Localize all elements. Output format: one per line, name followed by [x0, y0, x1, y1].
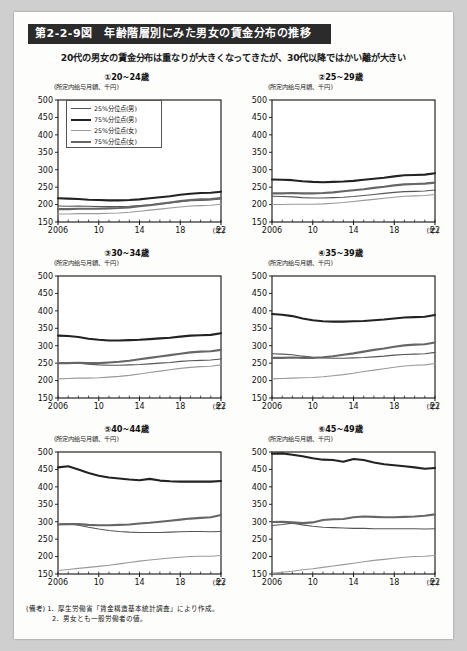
- plot-area-2: 150200250300350400450500200610141822(年): [238, 92, 443, 242]
- chart-legend: 25%分位点(男)75%分位点(男)25%分位点(女)75%分位点(女): [66, 100, 162, 148]
- y-tick-label: 500: [252, 96, 267, 105]
- legend-item-2: 75%分位点(男): [71, 114, 161, 125]
- y-axis-unit-label: (所定内給与月額、千円): [268, 258, 333, 267]
- y-tick-label: 300: [38, 342, 53, 351]
- plot-area-6: 150200250300350400450500200610141822(年): [238, 444, 443, 594]
- y-tick-label: 350: [252, 148, 267, 157]
- y-tick-label: 250: [38, 359, 53, 368]
- note-line-1: (備考) 1．厚生労働省「賃金構造基本統計調査」により作成。: [26, 604, 446, 614]
- panel-title-6: ⑥45~49歳: [238, 422, 443, 434]
- panel-grid: ①20~24歳(所定内給与月額、千円)150200250300350400450…: [14, 68, 453, 598]
- y-tick-label: 500: [252, 272, 267, 281]
- legend-line-icon: [71, 130, 91, 131]
- y-tick-label: 450: [252, 289, 267, 298]
- x-axis-unit-label: (年): [213, 226, 226, 235]
- y-axis-unit-label: (所定内給与月額、千円): [54, 82, 119, 91]
- x-tick-label: 18: [175, 402, 185, 411]
- chart-panel-2: ②25~29歳(所定内給与月額、千円)150200250300350400450…: [238, 70, 443, 242]
- legend-item-3: 25%分位点(女): [71, 125, 161, 136]
- x-tick-label: 10: [308, 402, 318, 411]
- y-tick-label: 200: [38, 200, 53, 209]
- x-axis-unit-label: (年): [427, 402, 440, 411]
- panel-title-5: ⑤40~44歳: [24, 422, 229, 434]
- y-axis-unit-label: (所定内給与月額、千円): [54, 434, 119, 443]
- y-tick-label: 400: [252, 483, 267, 492]
- y-tick-label: 300: [38, 166, 53, 175]
- y-axis-unit-label: (所定内給与月額、千円): [268, 82, 333, 91]
- plot-frame: [272, 452, 435, 574]
- x-tick-label: 2006: [48, 578, 68, 587]
- x-tick-label: 10: [308, 578, 318, 587]
- y-axis-unit-label: (所定内給与月額、千円): [268, 434, 333, 443]
- legend-label: 75%分位点(女): [94, 137, 137, 146]
- panel-title-3: ③30~34歳: [24, 246, 229, 258]
- legend-line-icon: [71, 141, 91, 143]
- y-tick-label: 250: [252, 535, 267, 544]
- y-tick-label: 350: [252, 500, 267, 509]
- y-tick-label: 350: [38, 324, 53, 333]
- y-tick-label: 400: [38, 131, 53, 140]
- y-tick-label: 250: [252, 183, 267, 192]
- x-tick-label: 2006: [48, 226, 68, 235]
- y-tick-label: 200: [252, 552, 267, 561]
- chart-svg: 150200250300350400450500200610141822(年): [238, 268, 443, 418]
- y-tick-label: 300: [252, 342, 267, 351]
- x-tick-label: 14: [348, 402, 358, 411]
- chart-svg: 150200250300350400450500200610141822(年): [238, 92, 443, 242]
- legend-item-1: 25%分位点(男): [71, 103, 161, 114]
- legend-label: 75%分位点(男): [94, 115, 137, 124]
- y-tick-label: 200: [252, 376, 267, 385]
- legend-line-icon: [71, 119, 91, 121]
- chart-panel-5: ⑤40~44歳(所定内給与月額、千円)150200250300350400450…: [24, 422, 229, 594]
- y-tick-label: 450: [38, 465, 53, 474]
- x-tick-label: 18: [389, 578, 399, 587]
- chart-panel-4: ④35~39歳(所定内給与月額、千円)150200250300350400450…: [238, 246, 443, 418]
- x-tick-label: 2006: [262, 226, 282, 235]
- y-tick-label: 250: [252, 359, 267, 368]
- y-tick-label: 450: [252, 465, 267, 474]
- y-tick-label: 500: [38, 96, 53, 105]
- page-title: 第2-2-9図 年齢階層別にみた男女の賃金分布の推移: [28, 24, 331, 44]
- plot-frame: [272, 276, 435, 398]
- y-tick-label: 400: [252, 131, 267, 140]
- y-tick-label: 250: [38, 183, 53, 192]
- plot-area-5: 150200250300350400450500200610141822(年): [24, 444, 229, 594]
- x-axis-unit-label: (年): [427, 226, 440, 235]
- y-tick-label: 200: [38, 552, 53, 561]
- chart-panel-3: ③30~34歳(所定内給与月額、千円)150200250300350400450…: [24, 246, 229, 418]
- y-tick-label: 400: [252, 307, 267, 316]
- legend-line-icon: [71, 108, 91, 109]
- x-tick-label: 14: [348, 226, 358, 235]
- y-axis-unit-label: (所定内給与月額、千円): [54, 258, 119, 267]
- x-axis-unit-label: (年): [213, 402, 226, 411]
- chart-svg: 150200250300350400450500200610141822(年): [24, 444, 229, 594]
- x-axis-unit-label: (年): [427, 578, 440, 587]
- chart-svg: 150200250300350400450500200610141822(年): [24, 268, 229, 418]
- plot-area-4: 150200250300350400450500200610141822(年): [238, 268, 443, 418]
- panel-title-1: ①20~24歳: [24, 70, 229, 82]
- y-tick-label: 450: [252, 113, 267, 122]
- legend-item-4: 75%分位点(女): [71, 136, 161, 147]
- y-tick-label: 350: [38, 148, 53, 157]
- x-tick-label: 18: [389, 402, 399, 411]
- y-tick-label: 300: [252, 166, 267, 175]
- x-tick-label: 2006: [262, 578, 282, 587]
- x-tick-label: 10: [308, 226, 318, 235]
- figure-notes: (備考) 1．厚生労働省「賃金構造基本統計調査」により作成。 2．男女とも一般労…: [26, 604, 446, 624]
- x-tick-label: 18: [175, 578, 185, 587]
- x-tick-label: 2006: [48, 402, 68, 411]
- x-axis-unit-label: (年): [213, 578, 226, 587]
- note-line-2: 2．男女とも一般労働者の値。: [26, 614, 446, 624]
- x-tick-label: 14: [134, 578, 144, 587]
- y-tick-label: 300: [38, 518, 53, 527]
- chart-panel-1: ①20~24歳(所定内給与月額、千円)150200250300350400450…: [24, 70, 229, 242]
- y-tick-label: 200: [38, 376, 53, 385]
- x-tick-label: 2006: [262, 402, 282, 411]
- figure-title-bar: 第2-2-9図 年齢階層別にみた男女の賃金分布の推移: [28, 24, 331, 44]
- x-tick-label: 10: [94, 402, 104, 411]
- x-tick-label: 14: [134, 226, 144, 235]
- chart-panel-6: ⑥45~49歳(所定内給与月額、千円)150200250300350400450…: [238, 422, 443, 594]
- legend-label: 25%分位点(女): [94, 126, 137, 135]
- y-tick-label: 400: [38, 307, 53, 316]
- x-tick-label: 10: [94, 578, 104, 587]
